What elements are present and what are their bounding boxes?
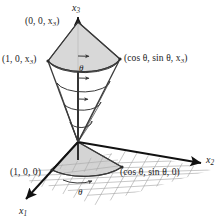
x3-axis-label: x3 <box>72 3 80 15</box>
x1-axis-label: x1 <box>19 206 27 218</box>
label-theta-cone: θ <box>79 64 84 73</box>
label-one-zero-x3: (1, 0, x3) <box>2 55 37 65</box>
label-cos-sin-x3: (cos θ, sin θ, x3) <box>124 54 187 64</box>
label-origin-top: (0, 0, x3) <box>25 17 60 27</box>
generator-lines <box>48 61 52 170</box>
label-theta-base: θ <box>78 188 83 197</box>
label-cos-sin-zero: (cos θ, sin θ, 0) <box>120 168 180 178</box>
cylindrical-coordinates-figure <box>0 0 221 219</box>
theta-base-arc <box>63 180 92 183</box>
figure-container: (0, 0, x3) (1, 0, x3) (cos θ, sin θ, x3)… <box>0 0 221 219</box>
x2-axis-label: x2 <box>206 155 214 167</box>
label-one-zero-zero: (1, 0, 0) <box>10 168 41 178</box>
